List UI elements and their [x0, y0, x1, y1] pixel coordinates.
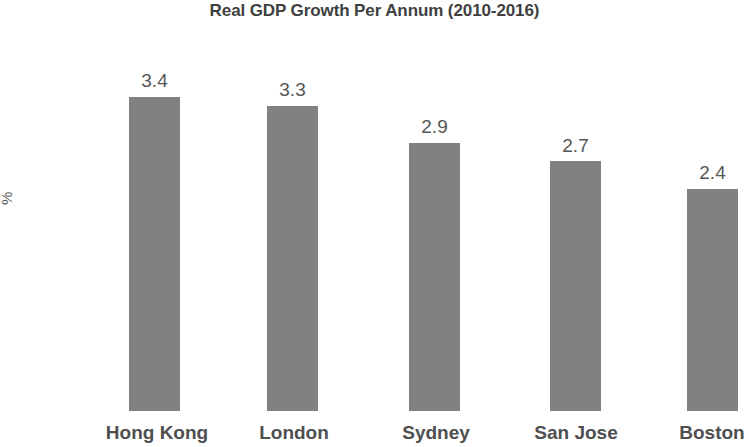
bar[interactable]: [409, 143, 460, 411]
chart-title: Real GDP Growth Per Annum (2010-2016): [0, 1, 749, 21]
y-axis: 4.0 3.5 3.0 2.5 2.0 1.5 1.0 0.5 0.0: [0, 0, 80, 447]
y-axis-title: %: [0, 192, 15, 205]
bar-value-label: 2.7: [528, 136, 623, 155]
bar-value-label: 3.3: [245, 80, 340, 99]
bar[interactable]: [129, 97, 180, 412]
bar[interactable]: [687, 189, 738, 411]
bar[interactable]: [550, 161, 601, 411]
bar-value-label: 2.4: [665, 163, 749, 182]
plot-area: 3.4 3.3 2.9 2.7 2.4: [80, 41, 749, 411]
bar-group: 3.3: [267, 106, 318, 411]
bar-group: 2.9: [409, 143, 460, 411]
bar-group: 3.4: [129, 97, 180, 412]
bar[interactable]: [267, 106, 318, 411]
x-tick-label-sydney: Sydney: [402, 423, 470, 442]
bar-value-label: 2.9: [387, 117, 482, 136]
bar-group: 2.4: [687, 189, 738, 411]
x-tick-label-hong-kong: Hong Kong: [106, 423, 208, 442]
x-tick-label-san-jose: San Jose: [534, 423, 617, 442]
bar-group: 2.7: [550, 161, 601, 411]
x-tick-label-boston: Boston: [679, 423, 744, 442]
bar-chart: Real GDP Growth Per Annum (2010-2016) 4.…: [0, 0, 749, 447]
bar-value-label: 3.4: [107, 71, 202, 90]
x-tick-label-london: London: [259, 423, 329, 442]
